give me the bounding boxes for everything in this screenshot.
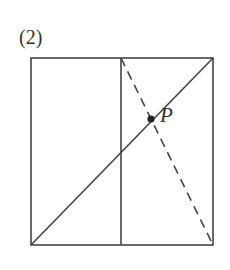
point-p-marker — [147, 115, 154, 122]
figure-number-label: (2) — [19, 27, 42, 47]
point-p-label: P — [160, 105, 173, 126]
geometry-figure: (2) P — [0, 0, 230, 270]
diagonal-line — [31, 58, 213, 245]
dashed-line — [121, 58, 213, 245]
